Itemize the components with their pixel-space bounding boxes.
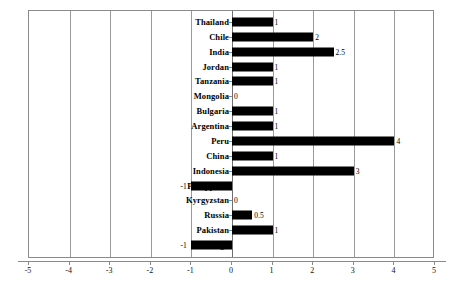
bar-row: Togo-1 bbox=[29, 238, 433, 253]
bar bbox=[232, 107, 273, 116]
y-axis-category-label: China bbox=[206, 151, 229, 161]
x-tick bbox=[353, 261, 354, 265]
x-tick bbox=[28, 261, 29, 265]
bar-row: India2.5 bbox=[29, 44, 433, 59]
y-axis-category-label: Argentina bbox=[191, 121, 229, 131]
bar bbox=[232, 211, 252, 220]
bar-value-label: 2 bbox=[315, 32, 319, 41]
bar bbox=[232, 226, 273, 235]
x-tick bbox=[190, 261, 191, 265]
bar-value-label: 4 bbox=[396, 136, 400, 145]
x-tick bbox=[109, 261, 110, 265]
bar-row: Pakistan1 bbox=[29, 223, 433, 238]
y-axis-category-label: Thailand bbox=[195, 17, 229, 27]
bar-row: Russia0.5 bbox=[29, 208, 433, 223]
x-tick bbox=[312, 261, 313, 265]
bar bbox=[232, 32, 313, 41]
bar bbox=[232, 17, 273, 26]
y-axis-category-label: Tanzania bbox=[195, 76, 229, 86]
x-axis-tick-label: 5 bbox=[432, 266, 436, 275]
x-tick bbox=[272, 261, 273, 265]
x-axis-line bbox=[18, 261, 446, 262]
x-axis-tick-label: -5 bbox=[25, 266, 32, 275]
x-axis-tick-label: -4 bbox=[65, 266, 72, 275]
bar-row: Indonesia3 bbox=[29, 163, 433, 178]
x-axis-tick-label: 3 bbox=[351, 266, 355, 275]
bar-value-label: -1 bbox=[180, 241, 186, 250]
bar-row: Thailand1 bbox=[29, 15, 433, 30]
bar-row: Tanzania1 bbox=[29, 74, 433, 89]
y-axis-category-label: Bulgaria bbox=[197, 106, 229, 116]
bar-row: Philippines-1 bbox=[29, 178, 433, 193]
bar-value-label: 1 bbox=[275, 17, 279, 26]
y-axis-category-label: Russia bbox=[204, 210, 229, 220]
plot-area: Thailand1Chile2India2.5Jordan1Tanzania1M… bbox=[28, 10, 434, 258]
x-axis-tick-label: 2 bbox=[310, 266, 314, 275]
bar-value-label: 1 bbox=[275, 77, 279, 86]
bar-value-label: -1 bbox=[180, 181, 186, 190]
bar-value-label: 1 bbox=[275, 62, 279, 71]
bar bbox=[232, 77, 273, 86]
bar bbox=[232, 62, 273, 71]
x-tick bbox=[434, 261, 435, 265]
bar-chart: Thailand1Chile2India2.5Jordan1Tanzania1M… bbox=[0, 0, 461, 286]
bar-value-label: 2.5 bbox=[336, 47, 345, 56]
x-tick bbox=[231, 261, 232, 265]
bar-value-label: 1 bbox=[275, 151, 279, 160]
x-axis-tick-label: 1 bbox=[270, 266, 274, 275]
y-axis-category-label: Jordan bbox=[202, 62, 229, 72]
bar-row: Kyrgyzstan0 bbox=[29, 193, 433, 208]
y-tick bbox=[229, 200, 232, 201]
bar bbox=[232, 166, 354, 175]
x-axis-tick-label: -3 bbox=[106, 266, 113, 275]
bar bbox=[191, 181, 232, 190]
y-axis-category-label: Kyrgyzstan bbox=[186, 195, 229, 205]
bar-row: Chile2 bbox=[29, 29, 433, 44]
bar-row: Jordan1 bbox=[29, 59, 433, 74]
y-axis-category-label: Chile bbox=[209, 32, 229, 42]
bar-value-label: 1 bbox=[275, 122, 279, 131]
y-axis-category-label: Peru bbox=[211, 136, 229, 146]
bar-row: Peru4 bbox=[29, 134, 433, 149]
x-axis-tick-label: 4 bbox=[391, 266, 395, 275]
bar-value-label: 1 bbox=[275, 226, 279, 235]
x-tick bbox=[69, 261, 70, 265]
bar-row: Mongolia0 bbox=[29, 89, 433, 104]
y-axis-category-label: Mongolia bbox=[194, 91, 229, 101]
y-axis-category-label: Indonesia bbox=[193, 166, 229, 176]
x-axis-tick-label: -1 bbox=[187, 266, 194, 275]
x-axis-tick-label: -2 bbox=[146, 266, 153, 275]
bar bbox=[191, 241, 232, 250]
y-axis-category-label: Pakistan bbox=[197, 225, 229, 235]
bar-row: Argentina1 bbox=[29, 119, 433, 134]
bar-value-label: 0 bbox=[234, 196, 238, 205]
bar-row: China1 bbox=[29, 148, 433, 163]
bar bbox=[232, 47, 334, 56]
y-tick bbox=[229, 96, 232, 97]
bar-value-label: 0.5 bbox=[254, 211, 263, 220]
x-axis-tick-label: 0 bbox=[229, 266, 233, 275]
bar bbox=[232, 136, 394, 145]
bar-row: Bulgaria1 bbox=[29, 104, 433, 119]
bar-rows: Thailand1Chile2India2.5Jordan1Tanzania1M… bbox=[29, 11, 433, 257]
bar-value-label: 3 bbox=[356, 166, 360, 175]
bar bbox=[232, 122, 273, 131]
bar bbox=[232, 151, 273, 160]
y-axis-category-label: India bbox=[209, 47, 229, 57]
bar-value-label: 1 bbox=[275, 107, 279, 116]
x-tick bbox=[393, 261, 394, 265]
x-tick bbox=[150, 261, 151, 265]
bar-value-label: 0 bbox=[234, 92, 238, 101]
